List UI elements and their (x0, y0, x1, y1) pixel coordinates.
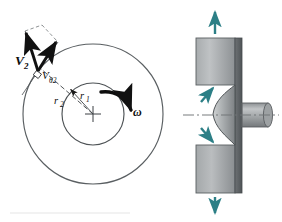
back-plate (235, 38, 242, 193)
label-r2-subscript: 2 (60, 100, 64, 109)
upper-casing-block (196, 38, 235, 85)
lower-casing-block (196, 145, 235, 193)
label-Vtheta2-subscript: θ2 (49, 76, 57, 85)
caption-remnant (10, 212, 130, 214)
figure-root: V 2 V θ2 r 2 r 1 ω (0, 0, 282, 222)
label-V2-subscript: 2 (23, 61, 29, 71)
figure-canvas: V 2 V θ2 r 2 r 1 ω (0, 0, 282, 222)
label-omega: ω (133, 105, 142, 119)
label-r1-subscript: 1 (86, 95, 90, 104)
